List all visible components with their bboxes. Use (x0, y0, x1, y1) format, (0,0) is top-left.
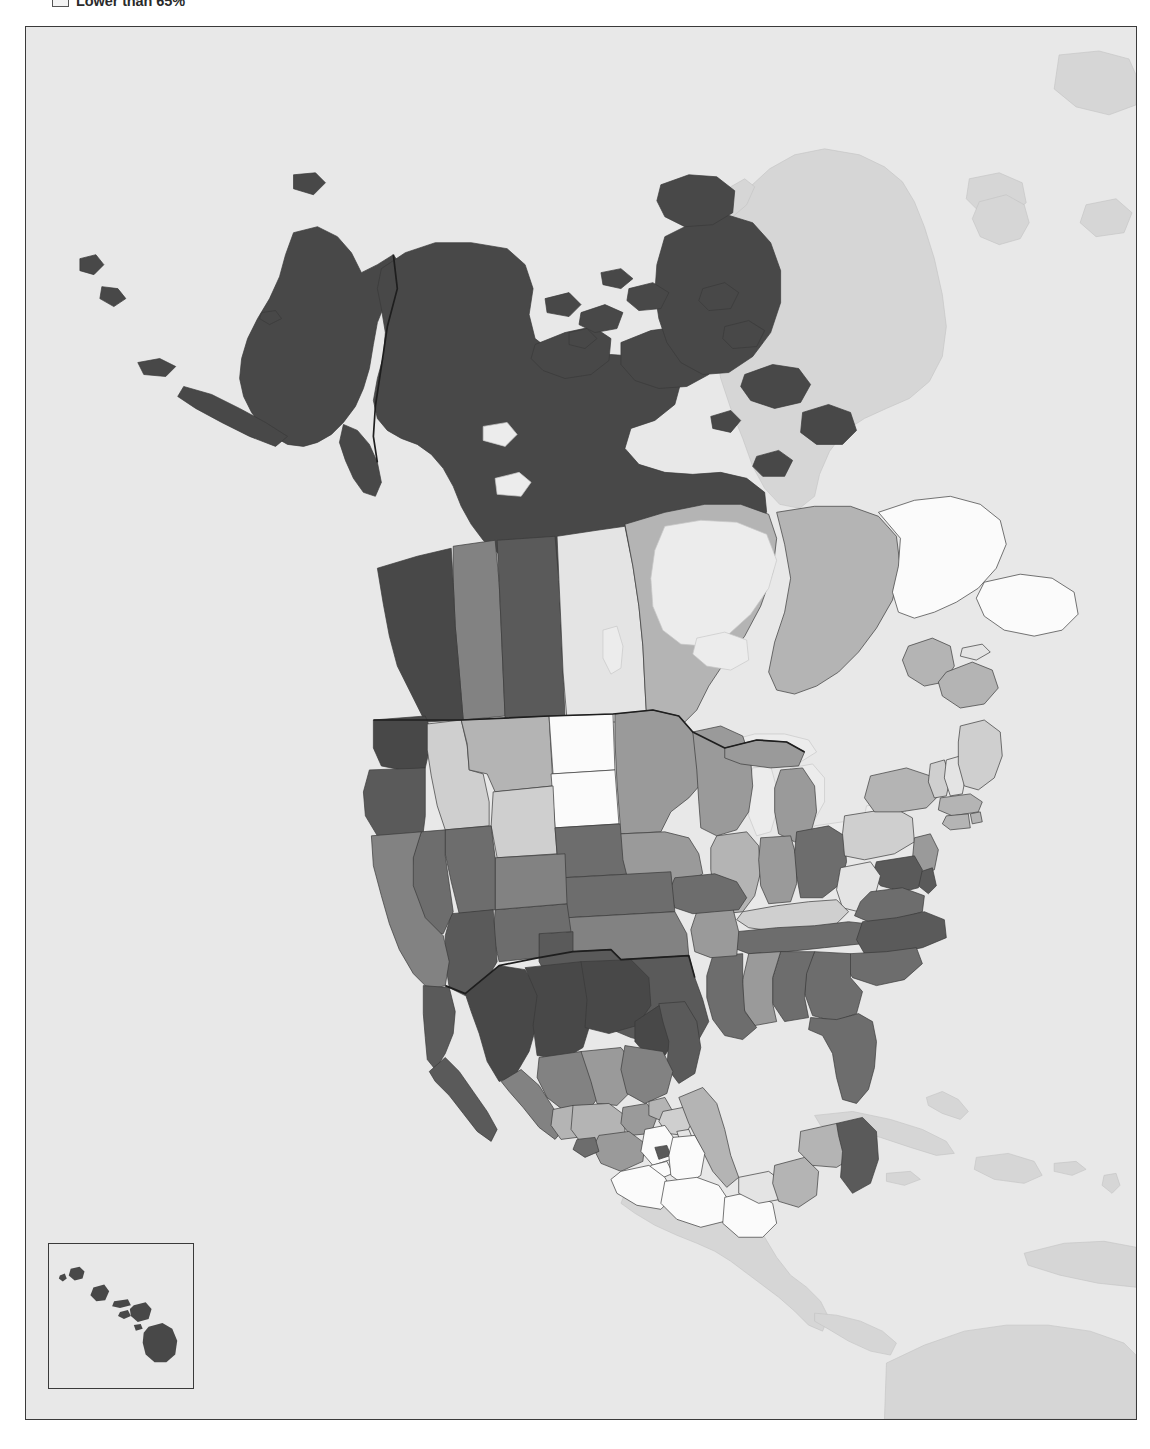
legend-swatch-lower-than-65-icon (52, 0, 69, 7)
region-washington[interactable] (373, 716, 429, 770)
region-north-dakota[interactable] (549, 714, 615, 774)
hawaii-inset-svg[interactable] (49, 1244, 193, 1388)
region-hawaii-big-island[interactable] (143, 1323, 178, 1362)
legend-item-lower-than-65[interactable]: Lower than 65% (52, 0, 185, 8)
region-arkansas[interactable] (691, 908, 739, 958)
water-lake-michigan (749, 766, 777, 836)
legend-item-label: Lower than 65% (76, 0, 185, 8)
map-frame[interactable] (25, 26, 1137, 1420)
region-colorado[interactable] (495, 854, 567, 910)
region-rhode-island[interactable] (970, 812, 982, 824)
hawaii-inset[interactable] (48, 1243, 194, 1389)
region-wyoming[interactable] (491, 786, 557, 858)
region-ellesmere-island[interactable] (657, 175, 735, 227)
map-legend: Lower than 65% (52, 0, 185, 11)
region-south-dakota[interactable] (551, 770, 619, 828)
north-america-choropleth-svg[interactable] (26, 27, 1136, 1419)
region-indiana[interactable] (759, 836, 797, 904)
region-saskatchewan[interactable] (497, 536, 565, 720)
region-oregon[interactable] (363, 768, 425, 836)
region-kansas[interactable] (563, 872, 675, 918)
